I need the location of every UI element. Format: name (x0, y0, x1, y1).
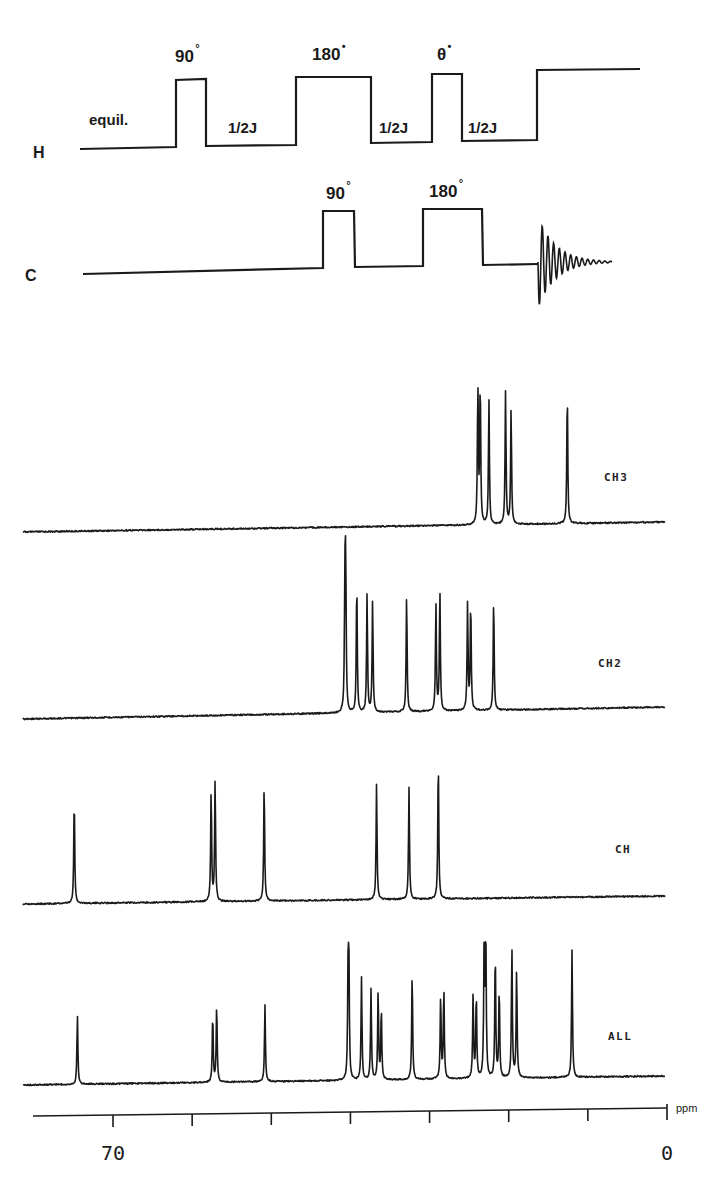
pulse-train-line (83, 209, 538, 274)
ppm-axis: 700ppm (33, 1102, 697, 1165)
fid-signal (538, 226, 612, 304)
degree-mark: • (448, 40, 452, 52)
degree-mark: ° (346, 179, 350, 191)
axis-unit-label: ppm (676, 1102, 697, 1114)
pulse-angle-label: 90 (326, 184, 345, 203)
nmr-spectra: CH3CH2CHALL (23, 388, 665, 1086)
tick-label: 0 (661, 1141, 673, 1165)
pulse-sequence-diagram: H90°180•θ•equil.1/2J1/2J1/2JC90°180° (25, 40, 640, 304)
tick-label: 70 (101, 1141, 125, 1165)
pulse-angle-label: 180 (429, 182, 457, 201)
delay-label: equil. (89, 111, 128, 128)
channel-h: H90°180•θ•equil.1/2J1/2J1/2J (33, 40, 640, 161)
spectrum-ch (23, 776, 665, 905)
spectrum-label-ch2: CH2 (598, 657, 622, 670)
spectrum-trace (23, 776, 665, 905)
spectrum-trace (23, 536, 665, 720)
degree-mark: ° (195, 42, 199, 54)
spectrum-label-ch: CH (615, 843, 631, 856)
degree-mark: • (342, 40, 346, 52)
degree-mark: ° (459, 177, 463, 189)
spectrum-ch3 (23, 388, 665, 533)
spectrum-label-all: ALL (608, 1030, 632, 1043)
delay-label: 1/2J (379, 119, 408, 136)
pulse-angle-label: θ (437, 45, 446, 64)
spectrum-all (23, 942, 665, 1086)
spectrum-trace (23, 388, 665, 533)
pulse-angle-label: 180 (312, 45, 340, 64)
channel-label: H (33, 144, 45, 161)
spectrum-label-ch3: CH3 (604, 471, 628, 484)
spectrum-ch2 (23, 536, 665, 720)
channel-label: C (25, 267, 37, 284)
channel-c: C90°180° (25, 177, 612, 304)
delay-label: 1/2J (228, 119, 257, 136)
spectrum-trace (23, 942, 665, 1086)
delay-label: 1/2J (468, 119, 497, 136)
pulse-train-line (80, 69, 640, 149)
dept-nmr-figure: H90°180•θ•equil.1/2J1/2J1/2JC90°180° CH3… (0, 0, 727, 1177)
pulse-angle-label: 90 (175, 47, 194, 66)
